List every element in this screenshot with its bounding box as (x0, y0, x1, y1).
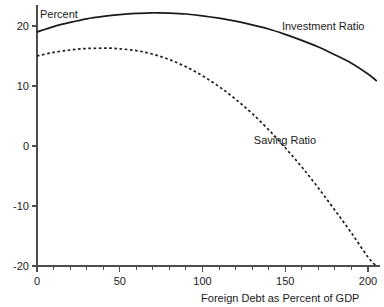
x-tick-label-200: 200 (359, 275, 377, 287)
series-label-investment-ratio: Investment Ratio (282, 20, 365, 32)
x-tick-label-150: 150 (276, 275, 294, 287)
series-labels: Investment RatioSaving Ratio (254, 20, 365, 145)
x-tick-label-100: 100 (193, 275, 211, 287)
y-tick-label-0: 0 (23, 140, 29, 152)
y-axis-title: Percent (40, 8, 78, 20)
chart-plot-area: 20100-10-20050100150200 Investment Ratio… (0, 0, 384, 307)
y-tick-label--20: -20 (13, 260, 29, 272)
chart-container: 20100-10-20050100150200 Investment Ratio… (0, 0, 384, 307)
tick-labels: 20100-10-20050100150200 (13, 20, 377, 287)
y-tick-label-10: 10 (17, 80, 29, 92)
series-label-saving-ratio: Saving Ratio (254, 134, 316, 146)
x-tick-label-0: 0 (34, 275, 40, 287)
x-axis-title: Foreign Debt as Percent of GDP (201, 292, 359, 304)
tick-marks (32, 26, 368, 272)
y-tick-label-20: 20 (17, 20, 29, 32)
series-curve-saving-ratio (37, 48, 376, 266)
x-tick-label-50: 50 (114, 275, 126, 287)
y-tick-label--10: -10 (13, 200, 29, 212)
axes (37, 5, 380, 266)
data-series (37, 13, 376, 266)
